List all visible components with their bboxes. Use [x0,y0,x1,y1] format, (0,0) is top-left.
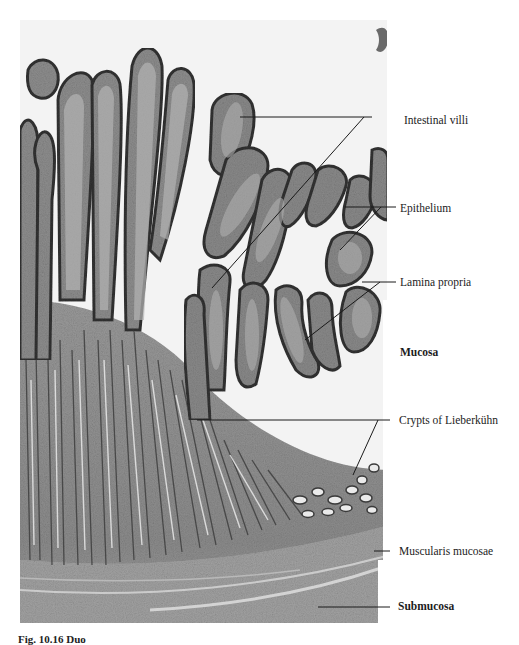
label-muscularis-mucosae: Muscularis mucosae [399,545,493,557]
label-crypts-of-lieberkuhn: Crypts of Lieberkühn [399,414,498,426]
figure-caption-truncated: Fig. 10.16 Duo [18,633,86,645]
label-mucosa: Mucosa [400,346,438,358]
label-epithelium: Epithelium [400,202,451,214]
label-submucosa: Submucosa [398,600,454,612]
label-intestinal-villi: Intestinal villi [404,114,468,126]
label-lamina-propria: Lamina propria [400,276,471,288]
